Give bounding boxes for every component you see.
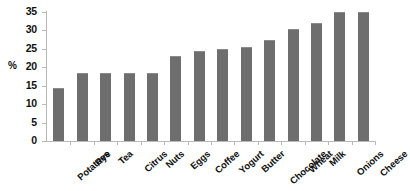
- bar: [311, 23, 322, 141]
- bar: [288, 29, 299, 141]
- x-axis-category-label: Coffee: [213, 148, 242, 176]
- x-axis-category-label: Yogurt: [236, 148, 265, 176]
- bar: [53, 88, 64, 141]
- plot-area: [47, 12, 375, 141]
- bar: [100, 73, 111, 141]
- bar: [334, 12, 345, 141]
- x-axis-tick-mark: [328, 141, 329, 145]
- bar: [124, 73, 135, 141]
- bar: [264, 40, 275, 141]
- bar: [358, 12, 369, 141]
- x-axis-category-label: Nuts: [164, 148, 187, 170]
- x-axis-category-label: Tea: [116, 148, 135, 166]
- x-axis-tick-mark: [117, 141, 118, 145]
- y-axis-tick-label: 15: [26, 79, 37, 92]
- x-axis-category-label: Eggs: [188, 148, 212, 171]
- y-axis-title: %: [8, 60, 17, 71]
- y-axis-tick-label: 0: [31, 134, 37, 147]
- x-axis-tick-mark: [234, 141, 235, 145]
- x-axis-tick-mark: [352, 141, 353, 145]
- bar: [170, 56, 181, 141]
- bar: [147, 73, 158, 141]
- x-axis-tick-mark: [188, 141, 189, 145]
- x-axis-tick-mark: [211, 141, 212, 145]
- x-axis-tick-mark: [70, 141, 71, 145]
- bar: [77, 73, 88, 141]
- y-axis-tick-label: 5: [31, 116, 37, 129]
- y-axis-tick-label: 30: [26, 23, 37, 36]
- bar: [194, 51, 205, 141]
- y-axis-tick-label: 35: [26, 5, 37, 18]
- y-axis-tick-label: 20: [26, 60, 37, 73]
- y-axis-tick-label: 10: [26, 97, 37, 110]
- bar: [241, 47, 252, 141]
- bar: [217, 49, 228, 141]
- x-axis-tick-mark: [141, 141, 142, 145]
- y-axis-tick-label: 25: [26, 42, 37, 55]
- x-axis-tick-mark: [281, 141, 282, 145]
- y-axis-tick-mark: [42, 141, 47, 142]
- x-axis-tick-mark: [305, 141, 306, 145]
- x-axis-tick-mark: [94, 141, 95, 145]
- x-axis-tick-mark: [164, 141, 165, 145]
- x-axis-tick-mark: [258, 141, 259, 145]
- x-axis-category-label: Butter: [259, 148, 287, 174]
- x-axis-tick-mark: [375, 141, 376, 145]
